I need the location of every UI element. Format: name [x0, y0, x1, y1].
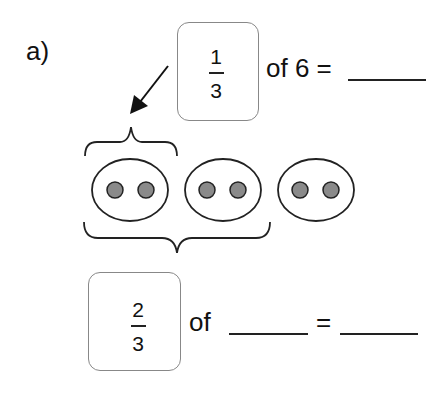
equals-sign: =: [316, 307, 331, 338]
fraction-bar: [131, 325, 146, 327]
answer2-blank-2[interactable]: [340, 333, 418, 335]
small-brace: [85, 127, 177, 156]
group-1: [92, 159, 168, 221]
answer2-blank-1[interactable]: [229, 333, 308, 335]
group-2: [185, 159, 261, 221]
denominator: 3: [132, 333, 144, 354]
group-3: [278, 159, 354, 221]
arrow-icon: [130, 66, 168, 114]
large-brace: [84, 222, 270, 253]
of-text: of: [189, 307, 211, 338]
numerator: 2: [132, 299, 144, 320]
fraction-two-thirds: 2 3: [128, 299, 148, 354]
groups-diagram: [0, 0, 448, 409]
